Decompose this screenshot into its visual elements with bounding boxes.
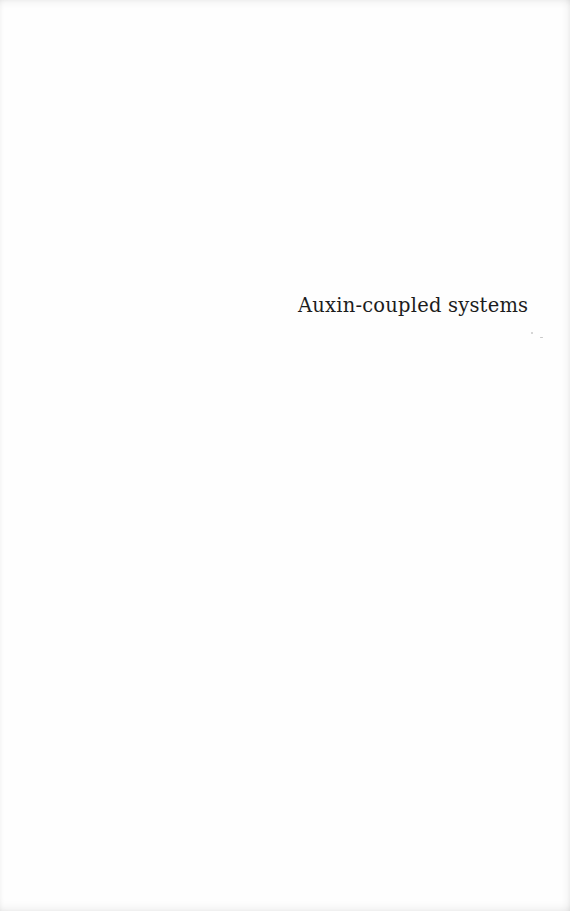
scan-speck <box>540 337 543 338</box>
half-title-heading: Auxin-coupled systems <box>298 294 528 317</box>
scan-speck <box>531 332 533 334</box>
book-page: Auxin-coupled systems <box>0 0 570 911</box>
